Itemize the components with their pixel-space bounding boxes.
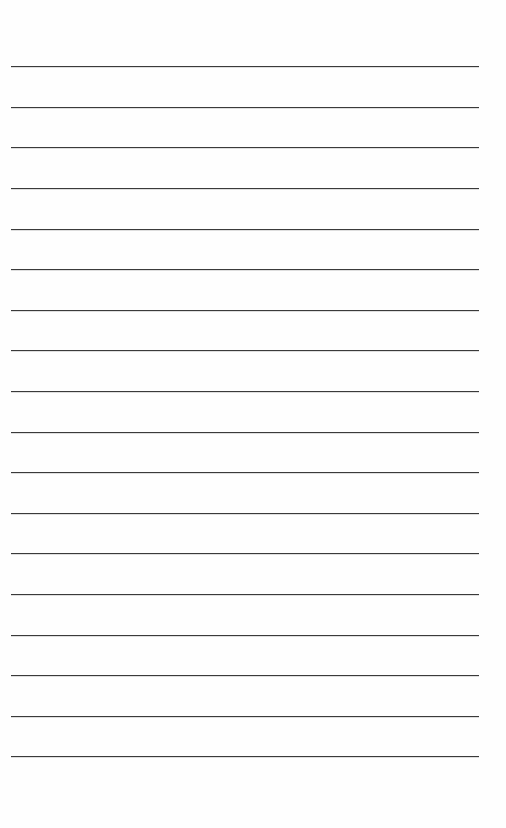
- lined-page: [0, 0, 506, 828]
- ruled-line: [11, 635, 479, 636]
- ruled-line: [11, 350, 479, 351]
- ruled-line: [11, 553, 479, 554]
- ruled-line: [11, 756, 479, 757]
- ruled-line: [11, 66, 479, 67]
- ruled-line: [11, 269, 479, 270]
- ruled-line: [11, 594, 479, 595]
- ruled-line: [11, 472, 479, 473]
- ruled-line: [11, 716, 479, 717]
- ruled-line: [11, 391, 479, 392]
- ruled-line: [11, 147, 479, 148]
- ruled-line: [11, 107, 479, 108]
- ruled-line: [11, 310, 479, 311]
- ruled-line: [11, 229, 479, 230]
- ruled-line: [11, 432, 479, 433]
- ruled-line: [11, 513, 479, 514]
- ruled-line: [11, 675, 479, 676]
- ruled-line: [11, 188, 479, 189]
